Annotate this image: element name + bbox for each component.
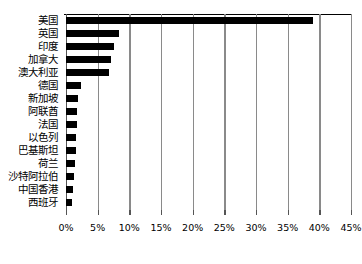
bar xyxy=(66,121,77,128)
category-label: 阿联酋 xyxy=(0,105,62,118)
x-axis-tick xyxy=(129,210,130,215)
x-axis-tick-label: 10% xyxy=(119,222,140,233)
category-label: 印度 xyxy=(0,40,62,53)
bar-row xyxy=(66,170,351,183)
category-label: 荷兰 xyxy=(0,157,62,170)
category-label: 法国 xyxy=(0,118,62,131)
x-axis-tick-label: 0% xyxy=(58,222,73,233)
bar-row xyxy=(66,196,351,209)
bar-row xyxy=(66,27,351,40)
x-axis-tick xyxy=(351,210,352,215)
x-axis-tick xyxy=(288,210,289,215)
bar xyxy=(66,199,72,206)
x-axis-tick-label: 40% xyxy=(309,222,330,233)
bar xyxy=(66,186,73,193)
category-label: 加拿大 xyxy=(0,53,62,66)
bar-row xyxy=(66,53,351,66)
x-axis-tick xyxy=(66,210,67,215)
category-label-column: 美国英国印度加拿大澳大利亚德国新加坡阿联酋法国以色列巴基斯坦荷兰沙特阿拉伯中国香… xyxy=(0,14,62,209)
plot-area xyxy=(66,14,351,210)
x-axis-tick-label: 15% xyxy=(150,222,171,233)
category-label: 新加坡 xyxy=(0,92,62,105)
bar-row xyxy=(66,157,351,170)
bar xyxy=(66,160,75,167)
x-axis-tick-label: 5% xyxy=(90,222,105,233)
category-label: 西班牙 xyxy=(0,196,62,209)
category-label: 美国 xyxy=(0,14,62,27)
bar xyxy=(66,82,81,89)
bar-row xyxy=(66,14,351,27)
bar-row xyxy=(66,183,351,196)
bar-row xyxy=(66,92,351,105)
bars-layer xyxy=(66,14,351,210)
bar-row xyxy=(66,40,351,53)
bar xyxy=(66,30,119,37)
bar-row xyxy=(66,144,351,157)
bar xyxy=(66,43,114,50)
x-axis-tick xyxy=(256,210,257,215)
bar xyxy=(66,95,78,102)
x-axis-tick xyxy=(224,210,225,215)
category-label: 巴基斯坦 xyxy=(0,144,62,157)
x-axis-tick xyxy=(319,210,320,215)
x-axis-tick-label: 30% xyxy=(245,222,266,233)
category-label: 澳大利亚 xyxy=(0,66,62,79)
category-label: 中国香港 xyxy=(0,183,62,196)
x-axis-tick xyxy=(161,210,162,215)
category-label: 英国 xyxy=(0,27,62,40)
category-label: 德国 xyxy=(0,79,62,92)
bar-row xyxy=(66,105,351,118)
x-axis-tick-label: 35% xyxy=(277,222,298,233)
bar-row xyxy=(66,66,351,79)
bar-row xyxy=(66,79,351,92)
bar xyxy=(66,56,111,63)
x-axis-tick xyxy=(98,210,99,215)
x-axis-tick xyxy=(193,210,194,215)
bar xyxy=(66,17,313,24)
bar-row xyxy=(66,131,351,144)
x-axis-tick-label: 20% xyxy=(182,222,203,233)
x-axis-tick-label: 25% xyxy=(214,222,235,233)
category-label: 以色列 xyxy=(0,131,62,144)
bar-row xyxy=(66,118,351,131)
x-axis-tick-label: 45% xyxy=(340,222,361,233)
bar xyxy=(66,108,77,115)
bar xyxy=(66,134,76,141)
gridline xyxy=(351,14,352,210)
category-label: 沙特阿拉伯 xyxy=(0,170,62,183)
bar xyxy=(66,69,109,76)
bar xyxy=(66,173,74,180)
bar xyxy=(66,147,76,154)
